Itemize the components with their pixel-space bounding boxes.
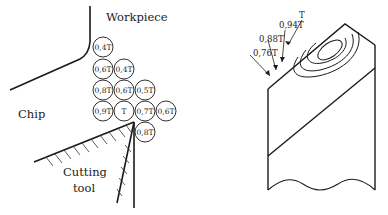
chip-outline (10, 6, 90, 90)
tool-rake-face (34, 122, 134, 162)
temp-label: 0,6T (95, 65, 112, 74)
tool-cutting-edge (268, 68, 375, 156)
isotherm-label-094T: 0,94T (279, 20, 304, 30)
cutting-temperature-diagram: 0,4T 0,6T 0,4T 0,8T 0,6T 0,5T 0,9T T 0,7… (0, 0, 388, 215)
temp-label: T (121, 107, 126, 116)
tool-break-line (268, 179, 375, 190)
left-figure: 0,4T 0,6T 0,4T 0,8T 0,6T 0,5T 0,9T T 0,7… (10, 6, 176, 208)
temp-label: 0,4T (95, 43, 112, 52)
temp-label: 0,9T (95, 107, 112, 116)
isotherm-label-088T: 0,88T (259, 34, 284, 44)
temp-label: 0,8T (137, 128, 154, 137)
temp-label: 0,4T (116, 65, 133, 74)
arrowheads (265, 41, 291, 76)
temp-label: 0,7T (137, 107, 154, 116)
isotherm-labels: T 0,94T 0,88T 0,76T (253, 10, 305, 58)
temp-label: 0,6T (116, 86, 133, 95)
isotherm-label-076T: 0,76T (253, 48, 278, 58)
chip-label: Chip (18, 107, 45, 121)
tool-flank-face (117, 122, 134, 203)
cutting-tool-label-line1: Cutting (63, 165, 108, 179)
workpiece-label: Workpiece (106, 10, 168, 24)
cutting-tool-label-line2: tool (73, 181, 95, 195)
isotherm-label-T: T (299, 10, 305, 20)
right-figure (250, 20, 375, 190)
isotherms (294, 32, 359, 77)
temp-label: 0,6T (158, 107, 175, 116)
temp-label: 0,8T (95, 86, 112, 95)
isotherm-076T (294, 32, 359, 77)
temp-label: 0,5T (137, 86, 154, 95)
isotherm-T (315, 36, 346, 64)
